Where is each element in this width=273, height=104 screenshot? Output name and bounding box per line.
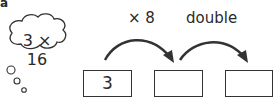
thought-bubble-text: 3 × 16 <box>14 31 60 69</box>
answer-box-1: 3 <box>83 70 132 97</box>
operation-label-1: × 8 <box>128 9 155 27</box>
arrow-2 <box>180 42 245 60</box>
thought-dot-3 <box>22 88 27 93</box>
answer-box-3[interactable] <box>225 70 273 97</box>
operation-label-2: double <box>186 9 237 27</box>
thought-dot-2 <box>14 78 20 84</box>
answer-box-2[interactable] <box>154 70 203 97</box>
arrow-1 <box>105 40 171 60</box>
